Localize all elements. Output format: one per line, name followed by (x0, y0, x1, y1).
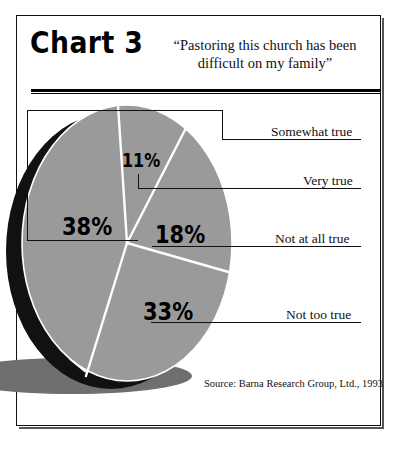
leader-somewhat-under-label (56, 240, 138, 241)
chart-figure: Chart 3 “Pastoring this church has been … (0, 0, 400, 449)
header-divider-thick (31, 89, 381, 92)
slice-value-not-at-all: 18% (155, 220, 205, 248)
leader-somewhat-top (27, 110, 223, 111)
leader-somewhat-vertical (27, 110, 28, 241)
callout-label-somewhat-true: Somewhat true (271, 124, 352, 140)
source-note: Source: Barna Research Group, Ltd., 1993 (204, 378, 383, 389)
callout-label-very-true: Very true (303, 173, 353, 189)
pie-chart: 38% 11% 18% 33% (0, 95, 260, 395)
leader-somewhat-left-stub (27, 240, 57, 241)
slice-value-very: 11% (122, 150, 161, 172)
leader-very-stub (138, 174, 139, 189)
callout-label-not-too-true: Not too true (286, 307, 351, 323)
pie-chart-svg: 38% 11% 18% 33% (0, 95, 260, 395)
page-title: Chart 3 (30, 27, 143, 58)
chart-subtitle-line-1: “Pastoring this church has been (152, 36, 378, 54)
chart-subtitle: “Pastoring this church has been difficul… (152, 36, 378, 72)
callout-label-not-at-all-true: Not at all true (275, 231, 350, 247)
header-divider-thin (31, 93, 381, 94)
chart-subtitle-line-2: difficult on my family” (152, 54, 378, 72)
slice-value-somewhat: 38% (62, 212, 112, 240)
leader-somewhat-drop (222, 110, 223, 140)
